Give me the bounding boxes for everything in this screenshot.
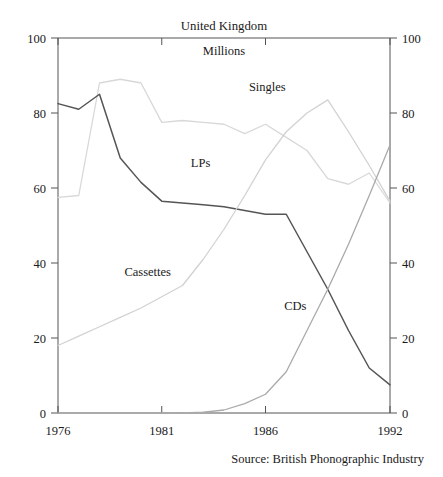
y-axis-tick-label-left: 80 bbox=[34, 107, 47, 121]
y-axis-tick-label-left: 20 bbox=[34, 332, 47, 346]
chart-container: 0020204040606080801001001976198119861992… bbox=[0, 0, 443, 477]
y-axis-tick-label-right: 40 bbox=[402, 257, 415, 271]
series-label-lps: LPs bbox=[191, 156, 211, 170]
x-axis-tick-label: 1981 bbox=[149, 424, 174, 438]
y-axis-tick-label-left: 0 bbox=[40, 407, 46, 421]
series-line-singles bbox=[58, 79, 390, 203]
series-line-lps bbox=[58, 94, 390, 385]
y-axis-tick-label-right: 20 bbox=[402, 332, 415, 346]
chart-source-note: Source: British Phonographic Industry bbox=[231, 452, 424, 466]
series-labels-group: SinglesLPsCassettesCDs bbox=[124, 80, 306, 313]
x-axis-tick-label: 1976 bbox=[46, 424, 71, 438]
series-lines-group bbox=[58, 79, 390, 413]
series-line-cds bbox=[58, 145, 390, 413]
y-axis-tick-label-left: 100 bbox=[27, 32, 46, 46]
y-axis-tick-label-right: 0 bbox=[402, 407, 408, 421]
y-axis-tick-label-right: 60 bbox=[402, 182, 415, 196]
chart-subtitle: Millions bbox=[203, 44, 246, 58]
axes-group bbox=[58, 38, 390, 413]
series-label-cds: CDs bbox=[284, 299, 306, 313]
series-label-singles: Singles bbox=[249, 80, 286, 94]
y-axis-tick-label-left: 40 bbox=[34, 257, 47, 271]
series-label-cassettes: Cassettes bbox=[124, 265, 171, 279]
x-axis-tick-label: 1992 bbox=[378, 424, 403, 438]
series-line-cassettes bbox=[58, 100, 390, 346]
y-axis-tick-label-left: 60 bbox=[34, 182, 47, 196]
y-axis-tick-label-right: 80 bbox=[402, 107, 415, 121]
line-chart-svg: 0020204040606080801001001976198119861992… bbox=[0, 0, 443, 477]
chart-title: United Kingdom bbox=[181, 19, 267, 33]
ticks-group: 0020204040606080801001001976198119861992 bbox=[27, 32, 421, 439]
y-axis-tick-label-right: 100 bbox=[402, 32, 421, 46]
x-axis-tick-label: 1986 bbox=[253, 424, 278, 438]
